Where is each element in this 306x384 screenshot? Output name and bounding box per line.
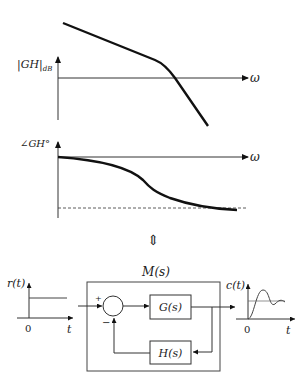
input-x-label: t (67, 323, 72, 336)
closed-loop-system: M(s) + − G(s) H(s) (78, 265, 235, 371)
forward-block-label: G(s) (159, 301, 182, 314)
equivalence-icon: ⇕ (147, 232, 159, 248)
output-y-label: c(t) (226, 279, 245, 292)
system-label: M(s) (141, 265, 170, 279)
output-response-plot: c(t) 0 t (226, 279, 295, 337)
output-x-label: t (286, 324, 291, 337)
phase-y-label: ∠GH° (20, 138, 50, 149)
input-y-label: r(t) (7, 277, 25, 290)
magnitude-x-label: ω (250, 71, 260, 85)
diagram-canvas: |GH|dB ω ∠GH° ω ⇕ r(t) 0 t M(s) + − G(s) (0, 0, 306, 384)
summer-plus-sign: + (95, 294, 102, 303)
output-origin-label: 0 (244, 324, 250, 335)
feedback-takeoff (193, 307, 212, 352)
phase-plot: ∠GH° ω (20, 138, 260, 218)
magnitude-plot: |GH|dB ω (17, 23, 260, 126)
magnitude-y-label: |GH|dB (17, 58, 52, 73)
input-step-plot: r(t) 0 t (7, 277, 73, 336)
phase-curve (58, 157, 237, 210)
output-response-curve (248, 290, 285, 319)
summer-minus-sign: − (102, 317, 110, 328)
phase-x-label: ω (250, 150, 260, 164)
feedback-block-label: H(s) (158, 347, 183, 360)
input-origin-label: 0 (25, 323, 31, 334)
feedback-return (114, 318, 150, 353)
summing-junction (103, 296, 123, 316)
magnitude-curve (63, 23, 208, 126)
